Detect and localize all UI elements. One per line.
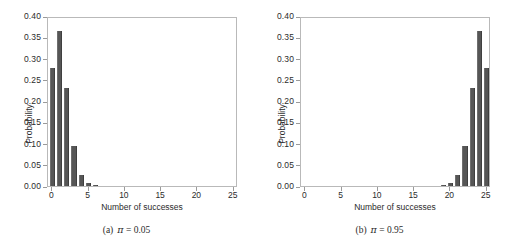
pi-symbol-a: π — [117, 224, 123, 235]
y-tick-label: 0.15 — [7, 117, 41, 127]
x-tick-mark — [88, 187, 89, 191]
panel-caption-b: (b)π = 0.95 — [253, 224, 506, 235]
x-tick-label: 25 — [228, 190, 237, 200]
y-tick-mark — [296, 80, 300, 81]
y-tick-mark — [43, 102, 47, 103]
panel-caption-label-a: (a) — [103, 225, 114, 235]
binomial-distribution-figure: Probability 0510152025 Number of success… — [0, 0, 506, 248]
bar — [71, 146, 76, 186]
bar — [86, 183, 91, 186]
y-tick-label: 0.05 — [7, 160, 41, 170]
bar — [484, 68, 489, 186]
bar — [462, 146, 467, 186]
x-tick-mark — [160, 187, 161, 191]
panel-b: Probability 0510152025 Number of success… — [253, 0, 506, 248]
x-tick-mark — [233, 187, 234, 191]
bar — [477, 31, 482, 186]
y-tick-mark — [296, 165, 300, 166]
x-tick-label: 15 — [408, 190, 417, 200]
y-tick-mark — [296, 38, 300, 39]
x-tick-label: 0 — [49, 190, 54, 200]
y-tick-label: 0.25 — [260, 75, 294, 85]
y-tick-mark — [296, 187, 300, 188]
x-tick-mark — [51, 187, 52, 191]
bar — [50, 68, 55, 186]
plot-frame-a — [47, 17, 237, 187]
y-tick-label: 0.05 — [260, 160, 294, 170]
x-tick-mark — [449, 187, 450, 191]
y-tick-label: 0.20 — [260, 96, 294, 106]
x-tick-label: 5 — [338, 190, 343, 200]
bar — [448, 183, 453, 186]
y-tick-label: 0.35 — [260, 32, 294, 42]
plot-area-b — [301, 18, 489, 186]
panel-a: Probability 0510152025 Number of success… — [0, 0, 253, 248]
y-tick-label: 0.15 — [260, 117, 294, 127]
bar — [57, 31, 62, 186]
bar — [455, 175, 460, 186]
bar — [441, 185, 446, 186]
x-tick-mark — [304, 187, 305, 191]
y-tick-label: 0.25 — [7, 75, 41, 85]
x-tick-mark — [124, 187, 125, 191]
y-tick-mark — [43, 17, 47, 18]
y-tick-mark — [296, 102, 300, 103]
panel-caption-value-b: = 0.95 — [379, 225, 403, 235]
x-tick-mark — [377, 187, 378, 191]
y-tick-mark — [43, 123, 47, 124]
y-tick-mark — [43, 187, 47, 188]
y-tick-mark — [296, 59, 300, 60]
x-axis-title: Number of successes — [300, 202, 490, 212]
y-tick-mark — [43, 80, 47, 81]
y-tick-label: 0.00 — [260, 181, 294, 191]
x-tick-label: 0 — [302, 190, 307, 200]
x-axis-title: Number of successes — [47, 202, 237, 212]
x-tick-label: 5 — [85, 190, 90, 200]
panel-caption-value-a: = 0.05 — [126, 225, 150, 235]
x-tick-mark — [341, 187, 342, 191]
plot-area-a — [48, 18, 236, 186]
y-tick-label: 0.10 — [260, 139, 294, 149]
y-tick-mark — [296, 144, 300, 145]
plot-frame-b — [300, 17, 490, 187]
y-tick-label: 0.00 — [7, 181, 41, 191]
y-tick-label: 0.10 — [7, 139, 41, 149]
y-tick-mark — [43, 59, 47, 60]
y-tick-label: 0.40 — [260, 11, 294, 21]
y-tick-mark — [296, 123, 300, 124]
y-tick-label: 0.20 — [7, 96, 41, 106]
panel-caption-label-b: (b) — [355, 225, 366, 235]
x-tick-label: 10 — [372, 190, 381, 200]
bar — [470, 88, 475, 186]
panel-caption-a: (a)π = 0.05 — [0, 224, 253, 235]
y-tick-mark — [43, 165, 47, 166]
x-tick-label: 25 — [481, 190, 490, 200]
x-tick-label: 10 — [119, 190, 128, 200]
bar — [93, 185, 98, 186]
y-tick-mark — [296, 17, 300, 18]
y-tick-mark — [43, 144, 47, 145]
bar — [64, 88, 69, 186]
y-tick-mark — [43, 38, 47, 39]
x-tick-mark — [486, 187, 487, 191]
x-tick-mark — [413, 187, 414, 191]
pi-symbol-b: π — [371, 224, 377, 235]
x-tick-label: 20 — [192, 190, 201, 200]
y-tick-label: 0.30 — [7, 54, 41, 64]
y-tick-label: 0.30 — [260, 54, 294, 64]
x-tick-label: 20 — [445, 190, 454, 200]
bar — [79, 175, 84, 186]
x-tick-label: 15 — [155, 190, 164, 200]
y-tick-label: 0.40 — [7, 11, 41, 21]
y-tick-label: 0.35 — [7, 32, 41, 42]
x-tick-mark — [196, 187, 197, 191]
